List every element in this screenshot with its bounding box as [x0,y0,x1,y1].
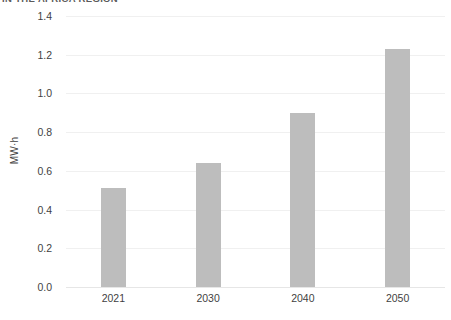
y-tick-label: 0.6 [37,165,52,177]
y-tick-label: 0.0 [37,281,52,293]
bar [385,49,410,287]
y-tick-label: 0.8 [37,126,52,138]
y-tick-label: 0.2 [37,242,52,254]
x-tick-label: 2021 [102,292,125,304]
bar [290,113,315,287]
chart-title: IN THE AFRICA REGION [2,0,118,5]
gridline [66,287,445,288]
y-axis-tick-labels: 0.00.20.40.60.81.01.21.4 [0,16,60,287]
x-tick-label: 2040 [291,292,314,304]
bar-series [66,16,445,287]
bar [196,163,221,287]
x-tick-label: 2050 [386,292,409,304]
x-tick-label: 2030 [196,292,219,304]
y-tick-label: 1.0 [37,87,52,99]
y-tick-label: 0.4 [37,204,52,216]
bar [101,188,126,287]
y-tick-label: 1.4 [37,10,52,22]
bar-chart: IN THE AFRICA REGION MW·h 0.00.20.40.60.… [0,0,451,320]
plot-area [66,16,445,287]
x-axis-tick-labels: 2021203020402050 [66,292,445,308]
y-tick-label: 1.2 [37,49,52,61]
